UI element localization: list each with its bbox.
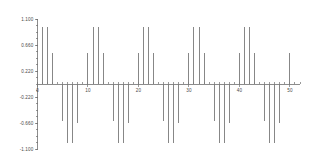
x-tick-label-4: 40	[237, 88, 243, 93]
y-tick-label-1: 0.660	[21, 43, 33, 48]
y-tick-label-5: -1.100	[20, 147, 34, 152]
x-tick-label-2: 20	[136, 88, 142, 93]
y-tick-label-4: -0.660	[20, 121, 34, 126]
x-tick-label-0: 0	[36, 88, 39, 93]
y-tick-label-3: -0.220	[20, 95, 34, 100]
y-tick-label-0: 1.100	[21, 17, 33, 22]
x-tick-label-1: 10	[85, 88, 91, 93]
x-tick-label-3: 30	[186, 88, 192, 93]
y-tick-label-2: 0.220	[21, 69, 33, 74]
x-tick-label-5: 50	[287, 88, 293, 93]
plot-area: 1.1000.6600.220-0.220-0.660-1.1000102030…	[0, 0, 310, 168]
stem-chart: 1.1000.6600.220-0.220-0.660-1.1000102030…	[0, 0, 310, 168]
